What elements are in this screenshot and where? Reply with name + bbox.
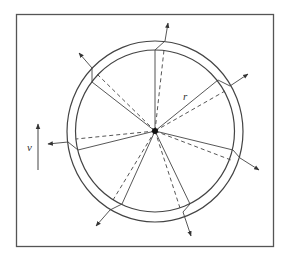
- velocity-label: v: [27, 141, 32, 153]
- spoke-left: [78, 131, 155, 150]
- spoke-right: [155, 131, 233, 150]
- dashed-spoke-lower-left: [113, 131, 155, 200]
- rim-segment-right: [233, 150, 240, 158]
- hub: [152, 128, 158, 134]
- dashed-spoke-upper-left: [97, 74, 155, 131]
- rim-segment-top: [155, 41, 165, 50]
- dashed-spoke-upper-right: [155, 91, 225, 131]
- velocity-vector-upper-left: [79, 53, 92, 68]
- velocity-vector-upper-right: [230, 74, 248, 86]
- spoke-lower-left: [122, 131, 155, 204]
- wheel-diagram: r v: [0, 0, 287, 255]
- velocity-vector-top: [165, 23, 168, 41]
- spoke-upper-left: [92, 82, 155, 131]
- rim-segment-lower-left: [110, 204, 122, 210]
- velocity-vector-right: [240, 158, 259, 170]
- radius-label: r: [183, 90, 188, 102]
- dashed-spoke-left: [76, 131, 155, 139]
- velocity-vector-lower-left: [96, 210, 110, 226]
- velocity-vector-left: [48, 142, 68, 144]
- spoke-upper-right: [155, 80, 218, 131]
- dashed-spoke-top: [155, 50, 164, 131]
- dashed-spoke-lower-right: [155, 131, 180, 208]
